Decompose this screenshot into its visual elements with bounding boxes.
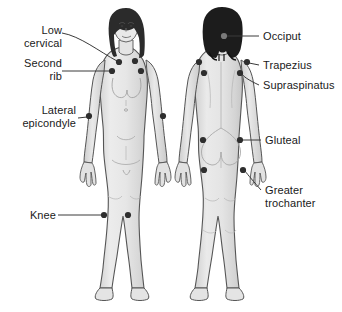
label-trapezius: Trapezius [263,59,312,72]
leader-lateral-epicondyle [78,117,87,118]
tender-point-knee-left [101,212,107,218]
tender-point-supraspinatus-right [237,70,243,76]
label-knee: Knee [0,209,56,222]
tender-point-trapezius-left [196,59,202,65]
tender-point-greater-trochanter-left [201,167,207,173]
label-gluteal: Gluteal [265,134,301,147]
leader-trapezius [249,63,259,65]
tender-point-knee-right [125,212,131,218]
tender-point-low-cervical-left [116,59,122,65]
tender-point-occiput [221,33,227,39]
leader-low-cervical [62,33,117,61]
label-supraspinatus: Supraspinatus [263,79,335,92]
tender-point-second-rib-left [109,68,115,74]
tender-point-gluteal-right [237,137,243,143]
label-lateral-epicondyle: Lateral epicondyle [0,104,76,129]
anterior-female-figure [80,8,171,301]
tender-point-trapezius-right [244,59,250,65]
label-second-rib: Second rib [0,57,62,82]
label-greater-trochanter: Greater trochanter [265,184,316,209]
label-occiput: Occiput [263,30,301,43]
posterior-female-figure [175,7,266,301]
tender-point-greater-trochanter-right [240,167,246,173]
tender-point-low-cervical-right [132,58,138,64]
tender-point-lateral-epicondyle-right [160,113,166,119]
tender-point-lateral-epicondyle-left [86,113,92,119]
tender-point-gluteal-left [200,137,206,143]
tender-point-supraspinatus-left [201,70,207,76]
fibromyalgia-tender-points-diagram: Low cervical Second rib Lateral epicondy… [0,0,342,312]
tender-point-second-rib-right [138,68,144,74]
label-low-cervical: Low cervical [0,24,62,49]
